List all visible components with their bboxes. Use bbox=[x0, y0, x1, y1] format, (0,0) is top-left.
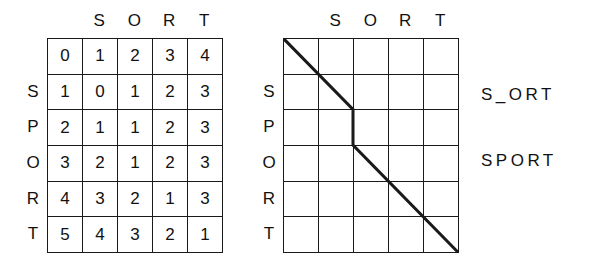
path-cell bbox=[354, 217, 389, 253]
path-cell bbox=[354, 110, 389, 146]
traceback-grid bbox=[283, 38, 459, 253]
path-cell bbox=[389, 182, 424, 218]
matrix-cell: 1 bbox=[83, 39, 118, 75]
matrix-cell: 2 bbox=[48, 110, 83, 146]
row-label-r: R bbox=[22, 181, 44, 217]
matrix-cell: 3 bbox=[188, 75, 223, 111]
matrix-cell: 2 bbox=[118, 182, 153, 218]
row-label-s: S bbox=[22, 74, 44, 110]
matrix-cell: 1 bbox=[83, 110, 118, 146]
alignment-line-top: S_ORT bbox=[481, 84, 557, 106]
table-row bbox=[284, 110, 459, 146]
column-header-o: O bbox=[117, 8, 152, 34]
matrix-cell: 1 bbox=[153, 182, 188, 218]
path-cell bbox=[424, 39, 459, 75]
column-header-s: S bbox=[82, 8, 117, 34]
column-header-s: S bbox=[318, 8, 353, 34]
table-row: 1 0 1 2 3 bbox=[48, 75, 223, 111]
path-cell bbox=[424, 146, 459, 182]
column-header-t: T bbox=[187, 8, 222, 34]
matrix-cell: 2 bbox=[153, 217, 188, 253]
path-cell bbox=[319, 39, 354, 75]
matrix-cell: 3 bbox=[188, 110, 223, 146]
path-cell bbox=[319, 217, 354, 253]
table-row bbox=[284, 39, 459, 75]
table-row: 3 2 1 2 3 bbox=[48, 146, 223, 182]
path-cell bbox=[354, 146, 389, 182]
matrix-cell: 5 bbox=[48, 217, 83, 253]
table-row bbox=[284, 75, 459, 111]
path-cell bbox=[424, 110, 459, 146]
path-cell bbox=[319, 146, 354, 182]
table-row: 2 1 1 2 3 bbox=[48, 110, 223, 146]
path-cell bbox=[424, 75, 459, 111]
matrix-cell: 4 bbox=[48, 182, 83, 218]
cost-matrix-column-headers: S O R T bbox=[47, 8, 222, 34]
matrix-cell: 3 bbox=[118, 217, 153, 253]
cost-matrix-grid: 0 1 2 3 4 1 0 1 2 3 2 1 1 2 3 3 2 1 2 3 bbox=[47, 38, 223, 253]
path-cell bbox=[389, 110, 424, 146]
matrix-cell: 3 bbox=[83, 182, 118, 218]
path-cell bbox=[319, 75, 354, 111]
path-cell bbox=[284, 217, 319, 253]
path-cell bbox=[284, 182, 319, 218]
matrix-cell: 2 bbox=[83, 146, 118, 182]
traceback-column-headers: S O R T bbox=[283, 8, 458, 34]
matrix-cell: 0 bbox=[83, 75, 118, 111]
traceback-row-labels: S P O R T bbox=[258, 38, 280, 252]
matrix-cell: 0 bbox=[48, 39, 83, 75]
row-label-o: O bbox=[258, 145, 280, 181]
matrix-cell: 2 bbox=[153, 75, 188, 111]
column-header-o: O bbox=[353, 8, 388, 34]
row-label-p: P bbox=[22, 109, 44, 145]
matrix-cell: 4 bbox=[83, 217, 118, 253]
matrix-cell: 1 bbox=[188, 217, 223, 253]
matrix-cell: 1 bbox=[118, 75, 153, 111]
table-row bbox=[284, 182, 459, 218]
path-cell bbox=[284, 39, 319, 75]
path-cell bbox=[284, 110, 319, 146]
path-cell bbox=[354, 182, 389, 218]
path-cell bbox=[424, 217, 459, 253]
path-cell bbox=[389, 217, 424, 253]
table-row: 4 3 2 1 3 bbox=[48, 182, 223, 218]
path-cell bbox=[319, 110, 354, 146]
table-row: 5 4 3 2 1 bbox=[48, 217, 223, 253]
table-row bbox=[284, 217, 459, 253]
column-header-r: R bbox=[152, 8, 187, 34]
path-cell bbox=[284, 146, 319, 182]
path-cell bbox=[354, 39, 389, 75]
matrix-cell: 3 bbox=[48, 146, 83, 182]
row-label-r: R bbox=[258, 181, 280, 217]
row-label-t: T bbox=[22, 216, 44, 252]
column-header-r: R bbox=[388, 8, 423, 34]
matrix-cell: 2 bbox=[153, 146, 188, 182]
cost-matrix-row-labels: S P O R T bbox=[22, 38, 44, 252]
row-label-s: S bbox=[258, 74, 280, 110]
row-label-o: O bbox=[22, 145, 44, 181]
matrix-cell: 1 bbox=[118, 110, 153, 146]
table-row bbox=[284, 146, 459, 182]
path-cell bbox=[389, 75, 424, 111]
matrix-cell: 4 bbox=[188, 39, 223, 75]
row-label-t: T bbox=[258, 216, 280, 252]
table-row: 0 1 2 3 4 bbox=[48, 39, 223, 75]
matrix-cell: 3 bbox=[188, 146, 223, 182]
alignment-line-bottom: SPORT bbox=[481, 150, 557, 172]
matrix-cell: 1 bbox=[48, 75, 83, 111]
matrix-cell: 2 bbox=[118, 39, 153, 75]
path-cell bbox=[389, 39, 424, 75]
path-cell bbox=[284, 75, 319, 111]
matrix-cell: 3 bbox=[188, 182, 223, 218]
path-cell bbox=[424, 182, 459, 218]
column-header-t: T bbox=[423, 8, 458, 34]
path-cell bbox=[354, 75, 389, 111]
matrix-cell: 2 bbox=[153, 110, 188, 146]
path-cell bbox=[319, 182, 354, 218]
row-label-p: P bbox=[258, 109, 280, 145]
matrix-cell: 3 bbox=[153, 39, 188, 75]
path-cell bbox=[389, 146, 424, 182]
alignment-block: S_ORT SPORT bbox=[481, 40, 557, 194]
matrix-cell: 1 bbox=[118, 146, 153, 182]
